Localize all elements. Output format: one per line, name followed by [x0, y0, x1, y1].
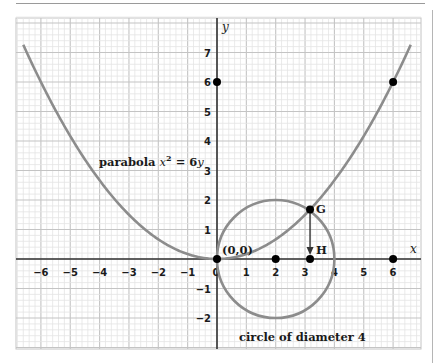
y-axis-label: y — [221, 20, 229, 34]
y-tick-label: 3 — [204, 166, 211, 177]
x-tick-label: 1 — [243, 267, 250, 278]
x-tick-label: −1 — [180, 267, 195, 278]
y-tick-label: 4 — [204, 136, 211, 147]
point-dot — [272, 255, 280, 263]
grid-frame — [16, 18, 421, 349]
x-tick-label: 6 — [390, 267, 397, 278]
origin-label: (0,0) — [222, 243, 253, 257]
y-tick-label: −2 — [196, 313, 211, 324]
y-tick-label: 1 — [204, 225, 211, 236]
y-tick-label: 2 — [204, 195, 211, 206]
circle-label: circle of diameter 4 — [239, 330, 366, 344]
x-tick-label: 5 — [360, 267, 367, 278]
x-tick-label: −4 — [92, 267, 107, 278]
parabola-word: parabola — [99, 155, 160, 169]
x-tick-label: 3 — [302, 267, 309, 278]
y-tick-label: −1 — [196, 284, 211, 295]
point-g — [306, 205, 314, 213]
x-tick-label: −3 — [121, 267, 136, 278]
grid — [16, 17, 421, 349]
point-h-label: H — [316, 243, 327, 257]
x-tick-label: 2 — [272, 267, 279, 278]
point-g-label: G — [316, 202, 326, 216]
y-tick-label: 5 — [204, 107, 211, 118]
chart: −6−5−4−3−2−101234567654321−1−2 y x parab… — [0, 0, 435, 363]
parabola-label: parabola x2 = 6y — [99, 153, 204, 169]
y-tick-label: 7 — [204, 48, 211, 59]
x-tick-label: −6 — [33, 267, 48, 278]
x-tick-label: −2 — [151, 267, 166, 278]
point-h — [306, 255, 314, 263]
point-dot — [213, 78, 221, 86]
point-origin — [213, 255, 221, 263]
parabola-eq-y: y — [196, 155, 204, 169]
x-tick-label: −5 — [63, 267, 78, 278]
y-tick-label: 6 — [204, 77, 211, 88]
parabola-eq-rest: = 6 — [172, 155, 198, 169]
point-dot — [389, 78, 397, 86]
point-dot — [389, 255, 397, 263]
x-axis-label: x — [410, 242, 417, 256]
